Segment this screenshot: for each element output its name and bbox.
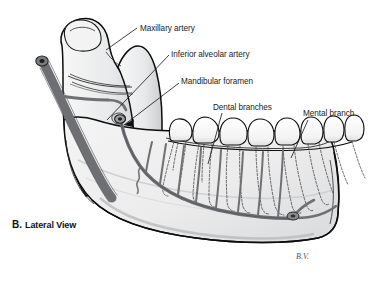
- label-dental-branches: Dental branches: [213, 103, 272, 112]
- tooth-canine: [275, 118, 300, 145]
- label-inferior-alveolar-artery: Inferior alveolar artery: [171, 50, 250, 59]
- leader-maxillary-artery: [106, 28, 137, 50]
- tooth-premolar-2: [248, 119, 274, 146]
- tooth-premolar-1: [220, 118, 247, 145]
- anatomy-figure: Maxillary artery Inferior alveolar arter…: [0, 0, 371, 284]
- caption-title: Lateral View: [25, 220, 77, 230]
- tooth-molar-1: [169, 119, 192, 141]
- mandibular-foramen-opening: [115, 115, 126, 123]
- tooth-incisor-1: [301, 117, 323, 144]
- label-maxillary-artery: Maxillary artery: [140, 24, 196, 33]
- caption-letter: B.: [12, 219, 22, 230]
- labels-group: Maxillary artery Inferior alveolar arter…: [140, 24, 355, 118]
- tooth-incisor-3: [345, 115, 364, 141]
- tooth-incisor-2: [324, 116, 344, 142]
- label-mandibular-foramen: Mandibular foramen: [181, 77, 253, 86]
- anatomy-illustration: Maxillary artery Inferior alveolar arter…: [0, 0, 371, 284]
- figure-caption: B. Lateral View: [12, 219, 77, 230]
- label-mental-branch: Mental branch: [303, 109, 355, 118]
- artist-signature: B.V.: [296, 252, 309, 261]
